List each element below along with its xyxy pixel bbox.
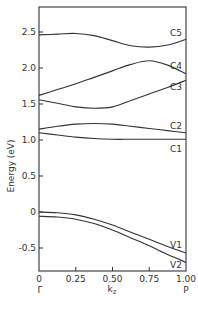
band-curve-c1	[39, 133, 186, 140]
band-label-v2: V2	[170, 260, 182, 270]
x-axis-title-sub: z	[113, 288, 117, 296]
band-label-c5: C5	[170, 28, 182, 38]
band-curve-c5	[39, 33, 186, 47]
y-tick-label: -0.5	[18, 243, 36, 253]
x-tick-label: 1.00	[176, 274, 196, 284]
y-axis-title: Energy (eV)	[6, 139, 16, 192]
band-label-c1: C1	[170, 144, 182, 154]
y-tick-label: 0.5	[22, 171, 36, 181]
band-structure-chart: 2.52.01.51.00.50-0.5 00.250.500.751.00 C…	[0, 0, 198, 309]
band-label-c2: C2	[170, 121, 182, 131]
x-tick-label: 0	[36, 274, 42, 284]
x-axis-title: kz	[108, 284, 117, 296]
x-tick-label: 0.25	[66, 274, 86, 284]
y-tick-label: 1.0	[22, 135, 37, 145]
band-label-c3: C3	[170, 82, 182, 92]
y-tick-label: 0	[30, 207, 36, 217]
band-curve-c3	[39, 80, 186, 108]
band-label-v1: V1	[170, 240, 182, 250]
band-curves	[39, 33, 186, 262]
y-tick-label: 2.5	[22, 27, 36, 37]
x-tick-label: 0.50	[102, 274, 122, 284]
y-tick-label: 2.0	[22, 63, 37, 73]
band-curve-c4	[39, 61, 186, 96]
gamma-point-label: Γ	[37, 285, 42, 295]
p-point-label: P	[183, 285, 189, 295]
band-label-c4: C4	[170, 61, 182, 71]
y-tick-label: 1.5	[22, 99, 36, 109]
x-tick-label: 0.75	[139, 274, 159, 284]
band-labels: C5C4C3C2C1V1V2	[170, 28, 182, 270]
band-curve-v1	[39, 212, 186, 253]
band-curve-c2	[39, 123, 186, 132]
band-curve-v2	[39, 216, 186, 262]
